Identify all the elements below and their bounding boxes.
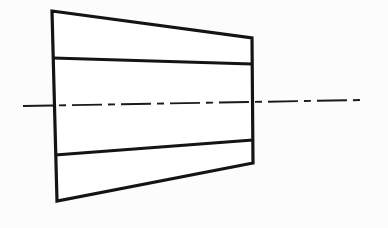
technical-drawing-figure <box>0 0 388 228</box>
drawing-canvas <box>0 0 388 228</box>
